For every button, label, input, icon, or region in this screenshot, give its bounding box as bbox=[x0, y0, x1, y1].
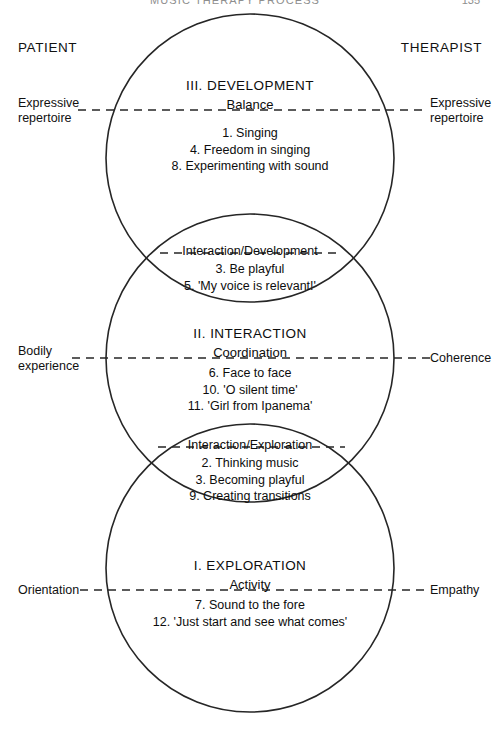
overlap-interaction-development-items: 3. Be playful 5. 'My voice is relevant!' bbox=[0, 261, 500, 294]
overlap-interaction-development-title-text: Interaction/Development bbox=[182, 244, 318, 258]
zone-development-item-1: 4. Freedom in singing bbox=[0, 142, 500, 159]
zone-interaction-title-text: II. INTERACTION bbox=[193, 326, 306, 341]
overlap-interaction-exploration-title-text: Interaction/Exploration bbox=[188, 438, 312, 452]
zone-interaction-item-1: 10. 'O silent time' bbox=[0, 382, 500, 399]
overlap-interaction-exploration-title: Interaction/Exploration bbox=[0, 433, 500, 454]
overlap-interaction-development-item-0: 3. Be playful bbox=[0, 261, 500, 278]
overlap-interaction-development-item-1: 5. 'My voice is relevant!' bbox=[0, 278, 500, 295]
zone-interaction-items: 6. Face to face 10. 'O silent time' 11. … bbox=[0, 365, 500, 415]
zone-exploration-title-text: I. EXPLORATION bbox=[194, 558, 307, 573]
zone-exploration-items: 7. Sound to the fore 12. 'Just start and… bbox=[0, 597, 500, 630]
zone-exploration-subtitle: Activity bbox=[0, 573, 500, 594]
zone-development-title: III. DEVELOPMENT bbox=[0, 74, 500, 95]
zone-interaction-item-2: 11. 'Girl from Ipanema' bbox=[0, 398, 500, 415]
overlap-interaction-development-title: Interaction/Development bbox=[0, 239, 500, 260]
heading-therapist: THERAPIST bbox=[401, 40, 482, 55]
overlap-interaction-exploration-item-1: 3. Becoming playful bbox=[0, 472, 500, 489]
zone-development-subtitle: Balance bbox=[0, 93, 500, 114]
zone-development-items: 1. Singing 4. Freedom in singing 8. Expe… bbox=[0, 125, 500, 175]
zone-development-item-2: 8. Experimenting with sound bbox=[0, 158, 500, 175]
zone-interaction-subtitle-text: Coordination bbox=[213, 345, 287, 360]
zone-development-subtitle-text: Balance bbox=[227, 97, 274, 112]
zone-interaction-item-0: 6. Face to face bbox=[0, 365, 500, 382]
zone-exploration-item-1: 12. 'Just start and see what comes' bbox=[0, 614, 500, 631]
venn-diagram-figure: MUSIC THERAPY PROCESS 135 PATIENT THERAP… bbox=[0, 0, 500, 730]
zone-interaction-subtitle: Coordination bbox=[0, 341, 500, 362]
overlap-interaction-exploration-item-0: 2. Thinking music bbox=[0, 455, 500, 472]
zone-development-item-0: 1. Singing bbox=[0, 125, 500, 142]
zone-exploration-subtitle-text: Activity bbox=[229, 577, 270, 592]
heading-patient: PATIENT bbox=[18, 40, 77, 55]
zone-development-title-text: III. DEVELOPMENT bbox=[186, 78, 314, 93]
zone-exploration-item-0: 7. Sound to the fore bbox=[0, 597, 500, 614]
overlap-interaction-exploration-items: 2. Thinking music 3. Becoming playful 9.… bbox=[0, 455, 500, 505]
zone-interaction-title: II. INTERACTION bbox=[0, 322, 500, 343]
zone-exploration-title: I. EXPLORATION bbox=[0, 554, 500, 575]
overlap-interaction-exploration-item-2: 9. Creating transitions bbox=[0, 488, 500, 505]
